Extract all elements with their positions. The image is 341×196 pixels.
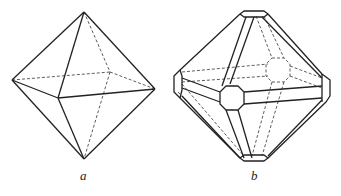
- figure-a-label: a: [80, 168, 87, 184]
- figure-b-modified-octahedron: [174, 11, 330, 161]
- figure-a-octahedron: [12, 12, 155, 159]
- figure-b-label: b: [251, 168, 258, 184]
- crystal-diagram: [0, 0, 341, 196]
